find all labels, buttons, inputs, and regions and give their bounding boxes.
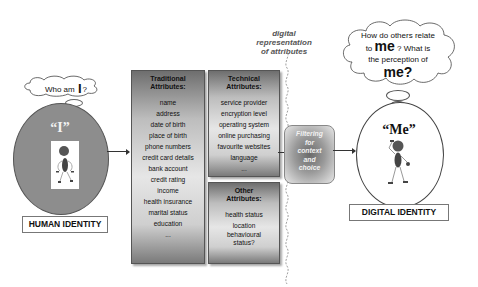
attribute-item: health insurance (132, 196, 204, 207)
attribute-item: education (132, 218, 204, 229)
human-symbol: “I” (38, 120, 82, 136)
attribute-item: credit rating (132, 174, 204, 185)
attribute-item: income (132, 185, 204, 196)
technical-attributes-box: Technical Attributes: service provider e… (208, 70, 280, 177)
attribute-item: health status (209, 209, 279, 220)
attribute-item: credit card details (132, 152, 204, 163)
attribute-item: phone numbers (132, 141, 204, 152)
attribute-item: language (209, 152, 279, 163)
thought-big-i: I (78, 81, 82, 96)
thought-big-me-question: me? (348, 65, 448, 79)
person-figure-icon (380, 138, 416, 190)
attribute-item: address (132, 108, 204, 119)
filtering-box: Filtering for context and choice (284, 125, 335, 184)
attribute-item: service provider (209, 97, 279, 108)
filter-text: for (285, 139, 334, 148)
traditional-attributes-box: Traditional Attributes: name address dat… (131, 70, 205, 264)
attribute-item: place of birth (132, 130, 204, 141)
attribute-item: ... (132, 229, 204, 240)
thought-bubble-large (386, 90, 410, 101)
attribute-item: ... (209, 163, 279, 174)
arrow-human-to-attributes (107, 151, 129, 152)
digital-identity-label: DIGITAL IDENTITY (349, 204, 449, 221)
other-title: Other Attributes: (209, 187, 279, 203)
traditional-title: Traditional Attributes: (132, 75, 204, 91)
attribute-item: encryption level (209, 108, 279, 119)
attribute-item: bank account (132, 163, 204, 174)
attribute-item: behavioural status? (224, 231, 264, 247)
thought-big-me: me (375, 38, 395, 54)
human-thought-cloud: Who am I? (22, 74, 100, 98)
thought-text: Who am (45, 85, 75, 94)
other-attributes-box: Other Attributes: health status location… (208, 182, 280, 264)
human-identity-label: HUMAN IDENTITY (22, 216, 108, 233)
attribute-item: favourite websites (209, 141, 279, 152)
filter-text: Filtering (285, 130, 334, 139)
filter-text: choice (285, 164, 334, 173)
thought-text: to (366, 44, 373, 53)
digital-symbol: “Me” (376, 122, 422, 138)
technical-title: Technical Attributes: (209, 75, 279, 91)
filter-text: context (285, 147, 334, 156)
attribute-item: name (132, 97, 204, 108)
arrow-filter-to-digital (333, 150, 355, 151)
human-figure-card (51, 141, 79, 189)
attribute-item: date of birth (132, 119, 204, 130)
attribute-item: online purchasing (209, 130, 279, 141)
thought-line: How do others relate (348, 30, 448, 41)
person-figure-icon (51, 141, 79, 189)
attribute-item: operating system (209, 119, 279, 130)
digital-thought-cloud: How do others relate to me ? What is the… (340, 17, 458, 87)
attribute-item: location (209, 220, 279, 231)
filter-text: and (285, 156, 334, 165)
thought-text: ? What is (397, 44, 430, 53)
thought-question: ? (83, 85, 87, 94)
attribute-item: marital status (132, 207, 204, 218)
